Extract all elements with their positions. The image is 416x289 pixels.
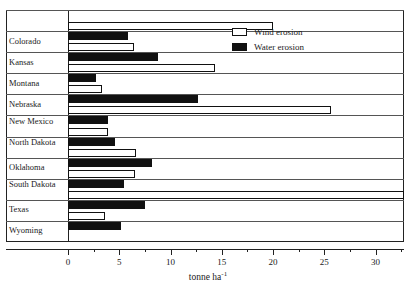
x-axis-title-text: tonne ha	[189, 272, 221, 282]
tick-label: 15	[207, 257, 237, 267]
bar-wind-kansas	[68, 43, 134, 51]
tick-label: 10	[156, 257, 186, 267]
tick-minor	[401, 249, 402, 252]
category-label-north-dakota: North Dakota	[9, 138, 69, 148]
tick-minor	[247, 249, 248, 252]
row-separator	[6, 31, 404, 32]
category-label-wyoming: Wyoming	[9, 226, 69, 236]
tick-label: 30	[361, 257, 391, 267]
category-label-texas: Texas	[9, 205, 69, 215]
tick-major	[273, 249, 274, 255]
row-separator	[6, 158, 404, 159]
open-square-icon	[232, 28, 247, 36]
bar-wind-oklahoma	[68, 149, 136, 157]
erosion-bar-chart: ColoradoKansasMontanaNebraskaNew MexicoN…	[0, 0, 416, 289]
bar-wind-texas	[68, 191, 404, 199]
tick-minor	[145, 249, 146, 252]
category-label-oklahoma: Oklahoma	[9, 163, 69, 173]
tick-label: 25	[309, 257, 339, 267]
bar-wind-new-mexico	[68, 106, 331, 114]
tick-minor	[196, 249, 197, 252]
bar-water-north-dakota	[68, 138, 115, 146]
bar-water-kansas	[68, 53, 158, 61]
row-separator	[6, 73, 404, 74]
bar-water-nebraska	[68, 95, 198, 103]
legend-item-water: Water erosion	[232, 42, 304, 52]
tick-label: 0	[53, 257, 83, 267]
tick-major	[376, 249, 377, 255]
bar-wind-south-dakota	[68, 170, 135, 178]
bar-water-colorado	[68, 32, 128, 40]
tick-major	[119, 249, 120, 255]
x-axis-title-exponent: -1	[221, 270, 227, 278]
tick-label: 20	[258, 257, 288, 267]
tick-minor	[94, 249, 95, 252]
tick-major	[324, 249, 325, 255]
category-label-new-mexico: New Mexico	[9, 117, 69, 127]
x-axis-title: tonne ha-1	[0, 270, 416, 282]
bar-wind-nebraska	[68, 85, 102, 93]
category-label-montana: Montana	[9, 79, 69, 89]
category-label-kansas: Kansas	[9, 58, 69, 68]
category-label-nebraska: Nebraska	[9, 100, 69, 110]
bar-wind-wyoming	[68, 212, 105, 220]
row-separator	[6, 200, 404, 201]
bar-water-south-dakota	[68, 180, 124, 188]
legend-label-wind: Wind erosion	[254, 27, 302, 37]
row-separator	[6, 10, 404, 11]
bar-water-wyoming	[68, 222, 121, 230]
bar-wind-north-dakota	[68, 128, 108, 136]
tick-label: 5	[104, 257, 134, 267]
filled-square-icon	[232, 43, 247, 51]
tick-major	[68, 249, 69, 255]
bar-water-new-mexico	[68, 116, 108, 124]
row-separator	[6, 52, 404, 53]
bar-wind-montana	[68, 64, 215, 72]
legend-label-water: Water erosion	[254, 42, 304, 52]
tick-major	[222, 249, 223, 255]
bar-water-texas	[68, 201, 145, 209]
tick-minor	[350, 249, 351, 252]
chart-legend: Wind erosion Water erosion	[232, 27, 304, 57]
legend-item-wind: Wind erosion	[232, 27, 304, 37]
bar-water-montana	[68, 74, 96, 82]
row-separator	[6, 94, 404, 95]
bar-water-oklahoma	[68, 159, 152, 167]
row-separator	[6, 221, 404, 222]
tick-major	[171, 249, 172, 255]
category-label-colorado: Colorado	[9, 37, 69, 47]
value-axis-line	[6, 249, 404, 250]
tick-minor	[299, 249, 300, 252]
category-label-south-dakota: South Dakota	[9, 180, 69, 190]
